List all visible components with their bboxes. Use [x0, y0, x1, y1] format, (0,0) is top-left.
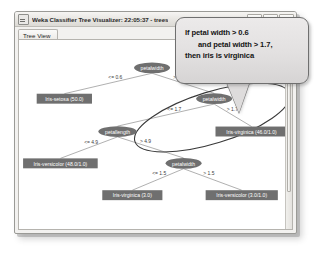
tree-leaf-node[interactable]: Iris-setosa (50.0) [37, 94, 92, 104]
node-label: petalwidth [172, 161, 195, 167]
window-title: Weka Classifier Tree Visualizer: 22:05:3… [32, 16, 168, 23]
tree-edge-label: <= 1.7 [167, 107, 181, 112]
tree-edge-label: <= 1.5 [152, 171, 166, 176]
node-label: Iris-versicolor (3.0/1.0) [216, 192, 267, 198]
tab-tree-view-label: Tree View [23, 32, 51, 39]
callout-tail [226, 81, 250, 113]
tree-leaf-node[interactable]: Iris-versicolor (3.0/1.0) [206, 190, 278, 200]
node-label: petallength [105, 129, 130, 135]
tree-leaf-node[interactable]: Iris-versicolor (48.0/1.0) [23, 158, 98, 168]
weka-window-icon [18, 14, 29, 25]
tree-leaf-node[interactable]: Iris-virginica (3.0) [102, 190, 162, 200]
tree-edge [118, 104, 215, 126]
node-label: petalwidth [141, 65, 164, 71]
callout-line-1: If petal width > 0.6 [185, 27, 300, 39]
tree-edge-label: > 1.5 [203, 171, 214, 176]
tree-split-node[interactable]: petalwidth [134, 62, 170, 73]
node-label: Iris-versicolor (48.0/1.0) [34, 161, 88, 167]
node-label: Iris-virginica (46.0/1.0) [226, 129, 277, 135]
callout-line-3: then iris is virginica [185, 50, 300, 62]
tree-split-node[interactable]: petalwidth [166, 158, 202, 169]
node-label: petalwidth [203, 96, 226, 102]
screenshot-root: Weka Classifier Tree Visualizer: 22:05:3… [0, 0, 327, 255]
annotation-callout: If petal width > 0.6 and petal width > 1… [175, 17, 309, 84]
tree-split-node[interactable]: petallength [98, 126, 136, 137]
callout-text: If petal width > 0.6 and petal width > 1… [176, 18, 308, 62]
tree-edge-label: > 4.9 [140, 139, 151, 144]
tree-edge-label: <= 0.6 [108, 75, 122, 80]
tree-edge-label: <= 4.9 [84, 139, 98, 144]
tree-leaf-node[interactable]: Iris-virginica (46.0/1.0) [215, 127, 287, 137]
node-label: Iris-setosa (50.0) [45, 96, 84, 102]
callout-line-2: and petal width > 1.7, [185, 39, 300, 51]
node-label: Iris-virginica (3.0) [113, 192, 152, 198]
